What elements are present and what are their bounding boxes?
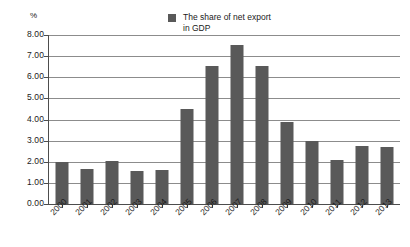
bar-2010[interactable]	[305, 141, 318, 204]
plot-area	[48, 35, 400, 204]
bar-2008[interactable]	[255, 66, 268, 204]
bar-2006[interactable]	[205, 66, 218, 204]
bar-2009[interactable]	[280, 122, 293, 204]
y-axis-tick-label: 8.00	[27, 29, 44, 39]
bar-slot	[324, 35, 349, 204]
legend-label: The share of net export in GDP	[183, 12, 271, 34]
bar-slot	[199, 35, 224, 204]
y-axis-tick-labels: 8.007.006.005.004.003.002.001.000.00	[0, 35, 44, 204]
bar-slot	[224, 35, 249, 204]
y-axis-tick-label: 6.00	[27, 71, 44, 81]
y-axis-tick-label: 0.00	[27, 198, 44, 208]
bar-slot	[374, 35, 399, 204]
y-axis-tick-label: 5.00	[27, 92, 44, 102]
y-axis-unit-label: %	[30, 11, 37, 20]
legend-label-line1: The share of net export	[183, 12, 271, 22]
y-axis-tick-label: 3.00	[27, 135, 44, 145]
bar-chart: % 8.007.006.005.004.003.002.001.000.00 T…	[0, 0, 410, 247]
bar-slot	[124, 35, 149, 204]
bar-slot	[349, 35, 374, 204]
bar-slot	[249, 35, 274, 204]
bar-2007[interactable]	[230, 45, 243, 204]
bar-slot	[274, 35, 299, 204]
y-axis-tick-label: 7.00	[27, 50, 44, 60]
bar-slot	[99, 35, 124, 204]
bar-series-container	[49, 35, 400, 204]
bar-slot	[74, 35, 99, 204]
bar-slot	[299, 35, 324, 204]
y-axis-tick-label: 2.00	[27, 156, 44, 166]
bar-slot	[149, 35, 174, 204]
chart-legend: The share of net export in GDP	[168, 12, 271, 34]
bar-2005[interactable]	[180, 109, 193, 204]
legend-label-line2: in GDP	[183, 23, 210, 33]
y-axis-tick-label: 4.00	[27, 114, 44, 124]
gridline	[48, 204, 400, 205]
y-axis-tick-label: 1.00	[27, 177, 44, 187]
bar-slot	[174, 35, 199, 204]
legend-swatch-icon	[168, 14, 176, 22]
bar-slot	[49, 35, 74, 204]
